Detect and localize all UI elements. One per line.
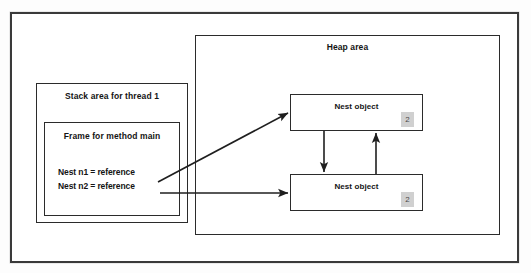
nest-object-bottom-count-badge: 2 bbox=[401, 192, 414, 207]
variable-n1: Nest n1 = reference bbox=[58, 167, 135, 177]
nest-object-top-label: Nest object bbox=[291, 102, 422, 111]
method-frame-region: Frame for method main Nest n1 = referenc… bbox=[44, 122, 180, 216]
method-frame-label: Frame for method main bbox=[45, 131, 179, 141]
heap-area-label: Heap area bbox=[196, 42, 499, 52]
variable-n2: Nest n2 = reference bbox=[58, 181, 135, 191]
nest-object-top: Nest object 2 bbox=[290, 94, 423, 131]
stack-area-label: Stack area for thread 1 bbox=[37, 91, 187, 101]
nest-object-bottom: Nest object 2 bbox=[290, 174, 423, 211]
diagram-canvas: Heap area Stack area for thread 1 Frame … bbox=[0, 0, 531, 273]
nest-object-top-count-badge: 2 bbox=[401, 112, 414, 127]
nest-object-bottom-label: Nest object bbox=[291, 182, 422, 191]
